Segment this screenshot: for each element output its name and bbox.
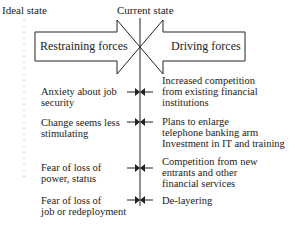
restraining-force-4-line1: Fear of loss of <box>41 195 126 206</box>
driving-force-1-line1: Increased competition <box>162 75 258 86</box>
driving-force-1: Increased competition from existing fina… <box>162 75 258 108</box>
restraining-force-4-line2: job or redeployment <box>41 206 126 217</box>
driving-forces-label: Driving forces <box>171 40 241 53</box>
ideal-state-label: Ideal state <box>2 4 47 16</box>
restraining-force-3: Fear of loss of power, status <box>41 162 101 184</box>
restraining-force-3-line1: Fear of loss of <box>41 162 101 173</box>
restraining-force-2-line1: Change seems less <box>41 117 120 128</box>
driving-force-1-line2: from existing financial <box>162 86 258 97</box>
force-field-diagram <box>0 0 295 225</box>
restraining-force-3-line2: power, status <box>41 173 101 184</box>
driving-force-4-line1: De-layering <box>162 195 212 206</box>
driving-force-2-line1: Plans to enlarge <box>162 116 285 127</box>
restraining-force-2-line2: stimulating <box>41 128 120 139</box>
driving-force-2-line2: telephone banking arm <box>162 127 285 138</box>
restraining-force-1-line1: Anxiety about job <box>41 86 117 97</box>
driving-force-3-line2: entrants and other <box>162 167 258 178</box>
restraining-force-4: Fear of loss of job or redeployment <box>41 195 126 217</box>
driving-force-3-line3: financial services <box>162 178 258 189</box>
restraining-force-1-line2: security <box>41 97 117 108</box>
restraining-force-1: Anxiety about job security <box>41 86 117 108</box>
driving-force-4: De-layering <box>162 195 212 206</box>
driving-force-1-line3: institutions <box>162 97 258 108</box>
driving-force-3: Competition from new entrants and other … <box>162 156 258 189</box>
driving-force-2-line3: Investment in IT and training <box>162 138 285 149</box>
current-state-label: Current state <box>117 4 174 16</box>
driving-force-2: Plans to enlarge telephone banking arm I… <box>162 116 285 149</box>
restraining-force-2: Change seems less stimulating <box>41 117 120 139</box>
restraining-forces-label: Restraining forces <box>40 40 128 53</box>
driving-force-3-line1: Competition from new <box>162 156 258 167</box>
